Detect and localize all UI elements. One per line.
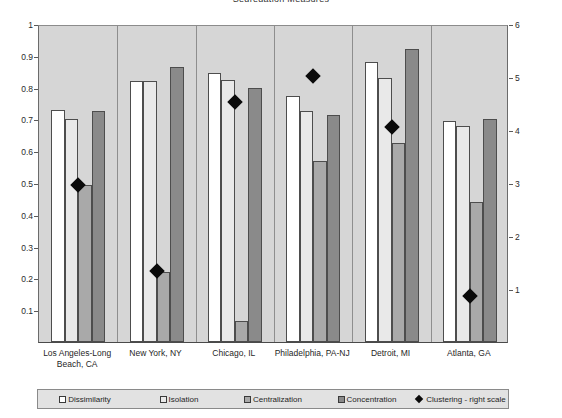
bar-dissimilarity-1 xyxy=(130,81,144,342)
y-axis-right-tick-label: 1 xyxy=(515,286,520,295)
y-axis-right-tick-label: 6 xyxy=(515,21,520,30)
y-axis-left: 0.10.20.30.40.50.60.70.80.91 xyxy=(38,25,39,343)
y-axis-left-tick xyxy=(34,184,38,185)
bar-concentration-0 xyxy=(92,111,106,342)
bar-dissimilarity-5 xyxy=(443,121,457,342)
y-axis-left-tick xyxy=(34,311,38,312)
y-axis-right-tick-label: 4 xyxy=(515,127,520,136)
bar-centralization-1 xyxy=(157,272,171,342)
legend-label: Centralization xyxy=(253,395,302,404)
bar-isolation-5 xyxy=(456,126,470,342)
x-axis-label-line: Atlanta, GA xyxy=(430,348,508,359)
y-axis-right-tick-label: 3 xyxy=(515,180,520,189)
y-axis-right-tick xyxy=(509,290,513,291)
plot-area xyxy=(38,25,508,343)
bar-isolation-0 xyxy=(65,119,79,342)
bar-isolation-2 xyxy=(221,80,235,342)
chart-root: Segregation Measures 0.10.20.30.40.50.60… xyxy=(0,0,562,418)
y-axis-left-tick-label: 0.8 xyxy=(21,85,33,94)
x-axis-label-3: Philadelphia, PA-NJ xyxy=(273,348,351,359)
bar-concentration-4 xyxy=(405,49,419,342)
y-axis-left-tick xyxy=(34,120,38,121)
y-axis-right-tick-label: 5 xyxy=(515,74,520,83)
y-axis-left-tick-label: 0.2 xyxy=(21,275,33,284)
x-axis-label-5: Atlanta, GA xyxy=(430,348,508,359)
y-axis-left-tick-label: 1 xyxy=(28,21,33,30)
y-axis-left-tick-label: 0.6 xyxy=(21,148,33,157)
group-separator xyxy=(196,26,197,342)
bar-centralization-4 xyxy=(392,143,406,342)
bar-centralization-3 xyxy=(313,161,327,342)
legend-swatch-icon xyxy=(338,396,345,403)
bar-dissimilarity-2 xyxy=(208,73,222,342)
y-axis-left-tick xyxy=(34,57,38,58)
y-axis-left-tick-label: 0.4 xyxy=(21,212,33,221)
y-axis-left-tick xyxy=(34,216,38,217)
y-axis-left-tick-label: 0.1 xyxy=(21,307,33,316)
group-separator xyxy=(352,26,353,342)
bar-dissimilarity-4 xyxy=(365,62,379,342)
y-axis-left-tick-label: 0.5 xyxy=(21,180,33,189)
y-axis-left-tick xyxy=(34,25,38,26)
bar-isolation-4 xyxy=(378,78,392,342)
y-axis-right-tick xyxy=(509,131,513,132)
y-axis-left-tick xyxy=(34,152,38,153)
y-axis-left-tick xyxy=(34,279,38,280)
y-axis-left-tick-label: 0.7 xyxy=(21,116,33,125)
y-axis-left-tick xyxy=(34,89,38,90)
y-axis-right-tick xyxy=(509,184,513,185)
bar-dissimilarity-0 xyxy=(51,110,65,342)
y-axis-right-tick-label: 2 xyxy=(515,233,520,242)
legend-label: Dissimilarity xyxy=(68,395,111,404)
x-axis-label-line: Detroit, MI xyxy=(351,348,429,359)
x-axis-label-line: Beach, CA xyxy=(38,359,116,370)
bar-centralization-0 xyxy=(78,185,92,342)
legend-label: Clustering - right scale xyxy=(426,395,506,404)
legend-item-clustering-right-scale[interactable]: Clustering - right scale xyxy=(414,395,508,404)
bar-isolation-1 xyxy=(143,81,157,342)
x-axis-label-0: Los Angeles-LongBeach, CA xyxy=(38,348,116,370)
chart-legend: DissimilarityIsolationCentralizationConc… xyxy=(37,389,509,409)
bar-concentration-5 xyxy=(483,119,497,342)
legend-item-concentration[interactable]: Concentration xyxy=(320,395,414,404)
bar-concentration-2 xyxy=(248,88,262,342)
x-axis-category-labels: Los Angeles-LongBeach, CANew York, NYChi… xyxy=(38,348,508,382)
x-axis-label-line: Chicago, IL xyxy=(195,348,273,359)
y-axis-left-tick xyxy=(34,248,38,249)
diamond-marker-icon xyxy=(415,395,423,403)
y-axis-right: 123456 xyxy=(508,25,509,343)
x-axis-label-1: New York, NY xyxy=(116,348,194,359)
x-axis-label-4: Detroit, MI xyxy=(351,348,429,359)
x-axis-label-line: New York, NY xyxy=(116,348,194,359)
y-axis-left-tick-label: 0.3 xyxy=(21,244,33,253)
group-separator xyxy=(431,26,432,342)
legend-item-centralization[interactable]: Centralization xyxy=(226,395,320,404)
bar-dissimilarity-3 xyxy=(286,96,300,342)
x-axis-label-line: Los Angeles-Long xyxy=(38,348,116,359)
group-separator xyxy=(117,26,118,342)
x-axis-label-2: Chicago, IL xyxy=(195,348,273,359)
bar-concentration-1 xyxy=(170,67,184,342)
y-axis-right-tick xyxy=(509,237,513,238)
legend-swatch-icon xyxy=(244,396,251,403)
x-axis-label-line: Philadelphia, PA-NJ xyxy=(273,348,351,359)
y-axis-right-tick xyxy=(509,25,513,26)
legend-item-dissimilarity[interactable]: Dissimilarity xyxy=(38,395,132,404)
bar-centralization-5 xyxy=(470,202,484,342)
legend-item-isolation[interactable]: Isolation xyxy=(132,395,226,404)
y-axis-left-tick-label: 0.9 xyxy=(21,53,33,62)
legend-label: Concentration xyxy=(347,395,397,404)
group-separator xyxy=(274,26,275,342)
clustering-marker-3 xyxy=(305,69,321,85)
bar-isolation-3 xyxy=(300,111,314,342)
legend-swatch-icon xyxy=(59,396,66,403)
chart-title: Segregation Measures xyxy=(0,0,562,2)
bar-centralization-2 xyxy=(235,321,249,342)
legend-swatch-icon xyxy=(160,396,167,403)
bar-concentration-3 xyxy=(327,115,341,342)
y-axis-right-tick xyxy=(509,78,513,79)
legend-label: Isolation xyxy=(169,395,199,404)
